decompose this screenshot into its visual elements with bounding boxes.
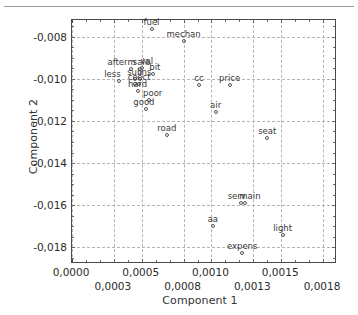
scatter-point-label: road — [157, 124, 176, 133]
axis-tick-y-minor — [72, 153, 74, 154]
axis-tick-x-minor — [253, 20, 254, 22]
plot-area: -0,008-0,010-0,012-0,014-0,016-0,018 fue… — [71, 19, 336, 263]
axis-tick-y-minor — [72, 247, 74, 248]
axis-tick-y-minor — [333, 131, 335, 132]
scatter-point-label: air — [210, 101, 221, 110]
axis-tick-x-minor — [86, 20, 87, 22]
gridline-vertical — [184, 20, 185, 262]
axis-tick-x-minor — [309, 260, 310, 262]
axis-tick-y-minor — [333, 89, 335, 90]
axis-tick-y-minor — [333, 226, 335, 227]
scatter-point-label: afterm — [107, 57, 135, 66]
axis-tick-x-minor — [86, 260, 87, 262]
axis-tick-y-minor — [333, 100, 335, 101]
y-tick-label: -0,012 — [33, 115, 67, 127]
axis-tick-y-minor — [333, 247, 335, 248]
scatter-point — [281, 233, 285, 237]
axis-tick-y-minor — [333, 205, 335, 206]
x-tick-label: 0,0005 — [122, 266, 159, 278]
axis-tick-y-minor — [333, 26, 335, 27]
scatter-point-label: light — [273, 223, 292, 232]
axis-tick-x-minor — [211, 20, 212, 22]
x-axis-title: Component 1 — [60, 294, 340, 307]
scatter-point — [151, 72, 155, 76]
scatter-point-label: mechan — [166, 29, 200, 38]
axis-tick-y-minor — [72, 205, 74, 206]
axis-tick-x-minor — [128, 20, 129, 22]
axis-tick-y-minor — [72, 26, 74, 27]
axis-tick-y-minor — [72, 195, 74, 196]
axis-tick-x-minor — [225, 260, 226, 262]
y-tick-label: -0,008 — [33, 31, 67, 43]
axis-tick-x — [72, 259, 73, 262]
axis-tick-x — [72, 20, 73, 23]
axis-tick-x-minor — [114, 20, 115, 22]
scatter-point — [136, 89, 140, 93]
axis-tick-y-minor — [72, 79, 74, 80]
scatter-point — [211, 224, 215, 228]
axis-tick-x-minor — [309, 20, 310, 22]
scatter-point — [214, 110, 218, 114]
axis-tick-x-minor — [184, 20, 185, 22]
scatter-point — [150, 27, 154, 31]
scatter-point-label: good — [133, 98, 154, 107]
x-tick-label: 0,0013 — [234, 280, 271, 292]
axis-tick-y-minor — [72, 121, 74, 122]
axis-tick-y-minor — [72, 89, 74, 90]
axis-tick-x-minor — [170, 20, 171, 22]
axis-tick-x-minor — [267, 20, 268, 22]
gridline-vertical — [323, 20, 324, 262]
scatter-point-label: fuel — [144, 18, 160, 27]
axis-tick-y-minor — [333, 237, 335, 238]
page-divider-rule — [4, 6, 354, 7]
y-tick-label: -0,016 — [33, 199, 67, 211]
scatter-point — [117, 79, 121, 83]
gridline-horizontal — [72, 247, 335, 248]
axis-tick-x-minor — [156, 260, 157, 262]
scatter-point-label: seat — [258, 127, 276, 136]
axis-tick-y-minor — [333, 216, 335, 217]
axis-tick-y-minor — [333, 184, 335, 185]
scatter-point-label: expens — [227, 242, 258, 251]
axis-tick-y-minor — [333, 79, 335, 80]
axis-tick-x-minor — [295, 260, 296, 262]
y-tick-label: -0,014 — [33, 157, 67, 169]
axis-tick-y-minor — [72, 100, 74, 101]
axis-tick-y-minor — [72, 131, 74, 132]
axis-tick-x-minor — [198, 260, 199, 262]
axis-tick-y-minor — [72, 110, 74, 111]
axis-tick-y-minor — [333, 163, 335, 164]
axis-tick-x-minor — [323, 20, 324, 22]
x-tick-label: 0,0010 — [192, 266, 229, 278]
axis-tick-x-minor — [239, 260, 240, 262]
axis-tick-y-minor — [72, 163, 74, 164]
scatter-point — [228, 83, 232, 87]
axis-tick-x-minor — [295, 20, 296, 22]
axis-tick-x-minor — [142, 260, 143, 262]
axis-tick-y-minor — [333, 195, 335, 196]
axis-tick-y-minor — [333, 142, 335, 143]
x-tick-label: 0,0015 — [262, 266, 299, 278]
axis-tick-y-minor — [72, 237, 74, 238]
axis-tick-y-minor — [333, 153, 335, 154]
axis-tick-y-minor — [72, 226, 74, 227]
scatter-point-label: poor — [143, 88, 162, 97]
axis-tick-y-minor — [72, 37, 74, 38]
axis-tick-x-minor — [211, 260, 212, 262]
gridline-horizontal — [72, 121, 335, 122]
axis-tick-x-minor — [184, 260, 185, 262]
axis-tick-x-minor — [100, 260, 101, 262]
scatter-point-label: main — [239, 192, 260, 201]
axis-tick-y-minor — [72, 58, 74, 59]
scatter-point-label: less — [104, 70, 120, 79]
axis-tick-x-minor — [170, 260, 171, 262]
axis-tick-y-minor — [72, 68, 74, 69]
axis-tick-x-minor — [114, 260, 115, 262]
axis-tick-x-minor — [198, 20, 199, 22]
scatter-point — [182, 39, 186, 43]
gridline-vertical — [253, 20, 254, 262]
axis-tick-x-minor — [239, 20, 240, 22]
axis-tick-y-minor — [72, 258, 74, 259]
scatter-point-label: price — [219, 73, 240, 82]
axis-tick-x-minor — [281, 260, 282, 262]
